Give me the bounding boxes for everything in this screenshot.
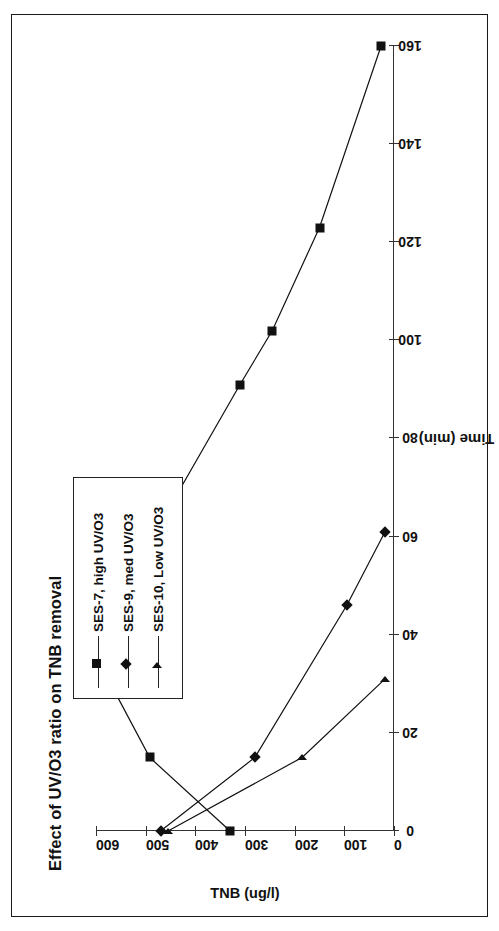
y-tick-label: 100 — [344, 837, 367, 853]
legend-label: SES-9, med UV/O3 — [121, 513, 136, 636]
y-tick — [295, 826, 296, 836]
series-lines — [96, 46, 394, 831]
triangle-marker-icon — [163, 828, 173, 834]
legend-item: SES-7, high UV/O3 — [83, 488, 113, 688]
x-tick-label: 80 — [402, 431, 418, 447]
triangle-marker-icon — [380, 676, 390, 682]
series-line — [161, 532, 385, 831]
data-point — [297, 754, 307, 760]
series-line — [168, 679, 385, 831]
data-point — [145, 753, 154, 762]
x-tick — [389, 438, 399, 439]
data-point — [251, 753, 259, 761]
data-point — [315, 223, 324, 232]
data-point — [380, 676, 390, 682]
x-tick-label: 120 — [398, 234, 421, 250]
legend-label: SES-10, Low UV/O3 — [151, 507, 166, 636]
data-point — [268, 326, 277, 335]
legend-item: SES-9, med UV/O3 — [113, 488, 143, 688]
y-tick — [245, 826, 246, 836]
y-tick-label: 600 — [96, 837, 119, 853]
diamond-marker-icon — [341, 600, 352, 611]
chart-title: Effect of UV/O3 ratio on TNB removal — [46, 351, 65, 871]
diamond-marker-icon — [379, 526, 390, 537]
square-marker-icon — [226, 827, 235, 836]
square-marker-icon — [315, 223, 324, 232]
y-tick — [195, 826, 196, 836]
legend-marker — [122, 660, 130, 668]
chart-canvas: Effect of UV/O3 ratio on TNB removal 020… — [0, 0, 499, 931]
y-tick-label: 300 — [245, 837, 268, 853]
y-tick — [344, 826, 345, 836]
legend-symbol — [89, 636, 107, 688]
x-tick-label: 40 — [402, 627, 418, 643]
y-tick-label: 0 — [394, 837, 402, 853]
legend-symbol — [149, 636, 167, 688]
data-point — [163, 828, 173, 834]
plot-area: 020406080100120140160 010020030040050060… — [96, 46, 394, 831]
data-point — [377, 42, 386, 51]
y-tick-label: 500 — [146, 837, 169, 853]
diamond-marker-icon — [249, 752, 260, 763]
scanned-figure-page: Effect of UV/O3 ratio on TNB removal 020… — [0, 0, 499, 931]
legend-item: SES-10, Low UV/O3 — [143, 488, 173, 688]
x-tick — [389, 536, 399, 537]
x-axis-title: Time (min) — [419, 431, 495, 448]
x-tick-label: 140 — [398, 136, 421, 152]
legend-marker — [152, 662, 162, 668]
square-marker-icon — [145, 753, 154, 762]
square-marker-icon — [268, 326, 277, 335]
y-tick-label: 200 — [295, 837, 318, 853]
data-point — [343, 601, 351, 609]
y-tick — [394, 826, 395, 836]
y-tick — [146, 826, 147, 836]
rotated-chart-wrapper: Effect of UV/O3 ratio on TNB removal 020… — [0, 0, 499, 931]
legend-label: SES-7, high UV/O3 — [91, 513, 106, 636]
series-line — [108, 46, 381, 831]
diamond-marker-icon — [120, 658, 131, 669]
square-marker-icon — [377, 42, 386, 51]
x-tick-label: 60 — [402, 529, 418, 545]
y-axis-title: TNB (ug/l) — [210, 885, 279, 901]
data-point — [381, 528, 389, 536]
chart-legend: SES-7, high UV/O3SES-9, med UV/O3SES-10,… — [73, 477, 183, 699]
x-tick — [389, 634, 399, 635]
x-tick-label: 0 — [406, 823, 414, 839]
y-tick-label: 400 — [195, 837, 218, 853]
data-point — [236, 380, 245, 389]
legend-marker — [92, 659, 101, 668]
triangle-marker-icon — [152, 662, 162, 668]
y-tick — [96, 826, 97, 836]
legend-symbol — [119, 636, 137, 688]
triangle-marker-icon — [297, 754, 307, 760]
x-tick — [389, 732, 399, 733]
x-tick-label: 100 — [398, 332, 421, 348]
x-tick-label: 20 — [402, 725, 418, 741]
x-tick-label: 160 — [398, 38, 421, 54]
square-marker-icon — [236, 380, 245, 389]
square-marker-icon — [92, 659, 101, 668]
data-point — [226, 827, 235, 836]
